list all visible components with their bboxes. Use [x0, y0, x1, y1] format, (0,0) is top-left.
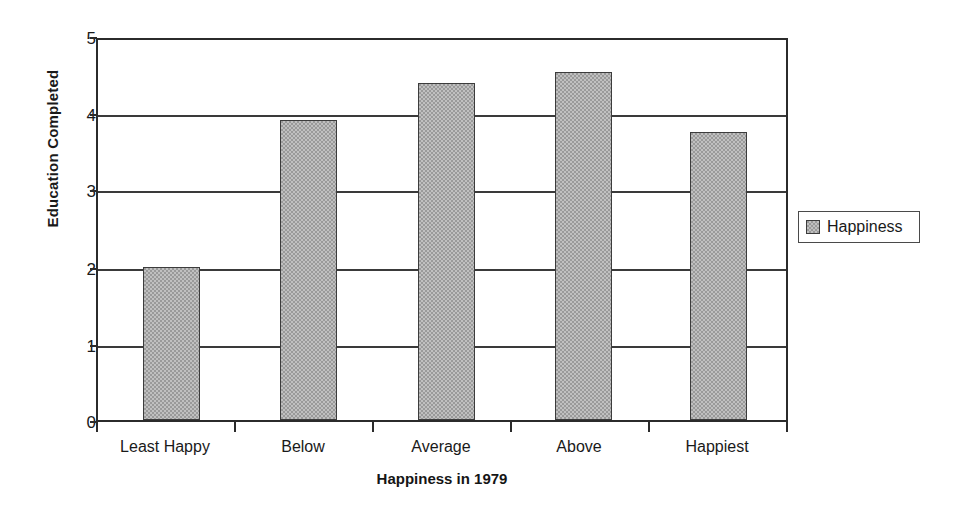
x-tick-label-above: Above	[499, 438, 659, 456]
bar-happiest	[690, 132, 747, 420]
x-tick-mark-5	[786, 422, 788, 432]
x-tick-mark-2	[372, 422, 374, 432]
bar-below	[280, 120, 337, 420]
x-tick-label-average: Average	[361, 438, 521, 456]
x-tick-label-least-happy: Least Happy	[85, 438, 245, 456]
x-tick-mark-4	[648, 422, 650, 432]
bar-chart: Education Completed 5 4 3 2 1 0 Least Ha…	[0, 0, 965, 512]
legend-swatch-icon	[806, 220, 820, 234]
x-tick-mark-1	[234, 422, 236, 432]
bar-above	[555, 72, 612, 420]
bar-average	[418, 83, 475, 420]
x-tick-label-below: Below	[223, 438, 383, 456]
bar-least-happy	[143, 267, 200, 420]
x-tick-label-happiest: Happiest	[637, 438, 797, 456]
y-axis-ticks: 5 4 3 2 1 0	[56, 0, 96, 512]
x-tick-mark-3	[510, 422, 512, 432]
x-tick-mark-0	[96, 422, 98, 432]
x-axis-title: Happiness in 1979	[96, 470, 788, 487]
plot-area	[96, 38, 788, 422]
legend: Happiness	[798, 211, 920, 243]
legend-label-happiness: Happiness	[827, 218, 903, 236]
